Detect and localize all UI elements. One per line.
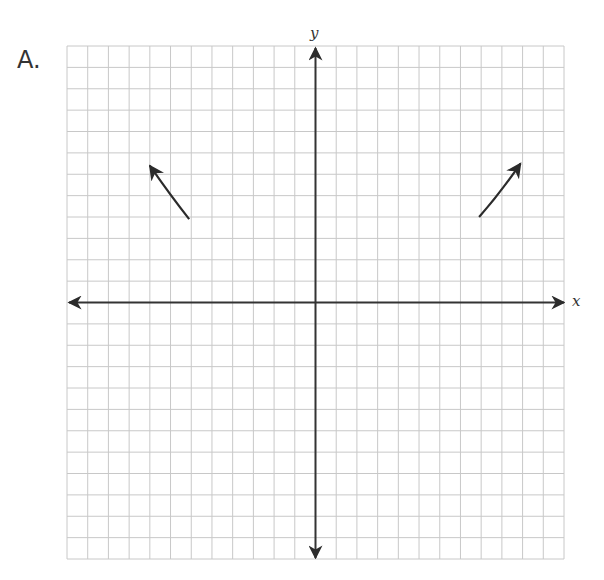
- y-axis-label: y: [309, 24, 319, 42]
- axes: [69, 48, 564, 558]
- curves: [150, 164, 521, 220]
- curve-branch: [150, 166, 189, 219]
- curve-branch: [479, 164, 520, 217]
- x-axis-label: x: [572, 292, 581, 310]
- coordinate-plane: x y: [0, 0, 604, 580]
